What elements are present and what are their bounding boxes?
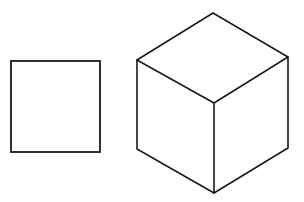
cube-top-face-front-edges [137,57,288,103]
isometric-cube-shape [137,13,288,193]
square-shape [11,61,100,152]
figure-canvas [0,0,304,202]
